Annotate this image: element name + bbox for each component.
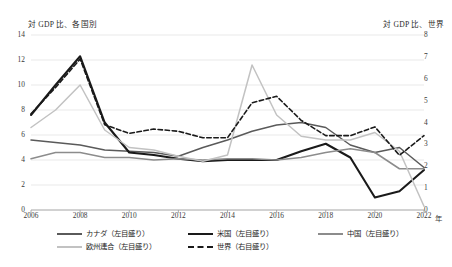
legend-label: 中国（左目盛り） bbox=[347, 230, 403, 237]
x-tick-2008: 2008 bbox=[60, 212, 100, 219]
right-tick-8: 8 bbox=[424, 31, 440, 38]
x-axis-unit-label: 年 bbox=[435, 212, 442, 223]
series-line-4 bbox=[31, 59, 424, 155]
right-tick-5: 5 bbox=[424, 97, 440, 104]
x-tick-2014: 2014 bbox=[208, 212, 248, 219]
x-tick-2006: 2006 bbox=[11, 212, 51, 219]
legend-label: カナダ（左目盛り） bbox=[86, 230, 149, 237]
legend-item-2[interactable]: 中国（左目盛り） bbox=[318, 230, 403, 237]
chart-container: 対 GDP 比、各国別 対 GDP 比、世界 02468101214 01234… bbox=[0, 0, 452, 267]
left-axis-caption: 対 GDP 比、各国別 bbox=[28, 18, 97, 29]
left-tick-14: 14 bbox=[9, 31, 25, 38]
x-tick-2016: 2016 bbox=[257, 212, 297, 219]
legend-item-4[interactable]: 世界（右目盛り） bbox=[188, 243, 273, 250]
legend-entry: 欧州連合（左目盛り） bbox=[57, 243, 156, 250]
left-axis-ticks: 02468101214 bbox=[5, 0, 25, 267]
left-tick-12: 12 bbox=[9, 56, 25, 63]
legend-label: 米国（左目盛り） bbox=[217, 230, 273, 237]
legend-entry: カナダ（左目盛り） bbox=[57, 230, 149, 237]
right-axis-ticks: 012345678 bbox=[424, 0, 448, 267]
legend-item-3[interactable]: 欧州連合（左目盛り） bbox=[57, 243, 156, 250]
series-lines bbox=[31, 56, 424, 206]
plot-svg bbox=[31, 35, 424, 210]
right-tick-4: 4 bbox=[424, 119, 440, 126]
legend-swatch-dashed bbox=[188, 246, 213, 248]
legend-swatch-solid bbox=[188, 233, 213, 235]
left-tick-2: 2 bbox=[9, 181, 25, 188]
right-tick-3: 3 bbox=[424, 140, 440, 147]
legend-swatch-solid bbox=[57, 246, 82, 248]
right-tick-2: 2 bbox=[424, 162, 440, 169]
x-tick-2012: 2012 bbox=[158, 212, 198, 219]
legend-label: 世界（右目盛り） bbox=[217, 243, 273, 250]
left-tick-4: 4 bbox=[9, 156, 25, 163]
left-tick-6: 6 bbox=[9, 131, 25, 138]
legend-entry: 世界（右目盛り） bbox=[188, 243, 273, 250]
legend-item-0[interactable]: カナダ（左目盛り） bbox=[57, 230, 149, 237]
gridlines bbox=[31, 35, 424, 213]
left-tick-8: 8 bbox=[9, 106, 25, 113]
right-tick-1: 1 bbox=[424, 184, 440, 191]
x-tick-2020: 2020 bbox=[355, 212, 395, 219]
legend-item-1[interactable]: 米国（左目盛り） bbox=[188, 230, 273, 237]
legend-entry: 中国（左目盛り） bbox=[318, 230, 403, 237]
right-tick-6: 6 bbox=[424, 75, 440, 82]
series-line-1 bbox=[31, 56, 424, 197]
legend-swatch-solid bbox=[57, 233, 82, 235]
chart-legend: カナダ（左目盛り）米国（左目盛り）中国（左目盛り）欧州連合（左目盛り）世界（右目… bbox=[0, 230, 452, 264]
plot-area bbox=[31, 35, 424, 210]
left-tick-10: 10 bbox=[9, 81, 25, 88]
x-axis-ticks: 200620082010201220142016201820202022年 bbox=[0, 212, 452, 226]
series-line-2 bbox=[31, 149, 424, 169]
legend-entry: 米国（左目盛り） bbox=[188, 230, 273, 237]
legend-label: 欧州連合（左目盛り） bbox=[86, 243, 156, 250]
x-tick-2010: 2010 bbox=[109, 212, 149, 219]
legend-swatch-solid bbox=[318, 233, 343, 235]
x-tick-2018: 2018 bbox=[306, 212, 346, 219]
right-tick-7: 7 bbox=[424, 53, 440, 60]
